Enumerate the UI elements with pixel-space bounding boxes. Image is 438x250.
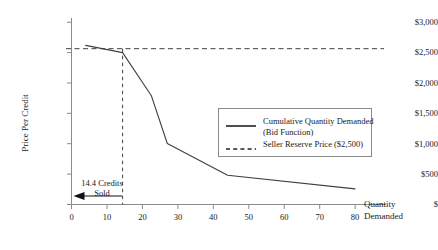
x-tick-label-70: 70 — [310, 212, 330, 222]
y-tick-label-500: $500 — [374, 169, 438, 179]
legend-solid-line-icon — [226, 117, 256, 127]
credits-sold-annotation: 14.4 Credits Sold — [66, 178, 138, 198]
y-tick-label-2000: $2,000 — [374, 78, 438, 88]
legend-entry-bid-function: Cumulative Quantity Demanded (Bid Functi… — [226, 116, 373, 137]
x-axis-title: Quantity Demanded — [364, 199, 403, 222]
chart-container: $3,000 $2,500 $2,000 $1,500 $1,000 $500 … — [0, 0, 438, 250]
legend-label-bid-function-line1: Cumulative Quantity Demanded — [263, 116, 373, 126]
y-tick-label-1500: $1,500 — [374, 108, 438, 118]
legend-dashed-line-icon — [226, 140, 256, 150]
y-tick-label-2500: $2,500 — [374, 47, 438, 57]
y-tick-label-1000: $1,000 — [374, 139, 438, 149]
legend-label-bid-function-line2: (Bid Function) — [263, 127, 313, 137]
x-axis-title-line2: Demanded — [364, 211, 403, 223]
x-tick-label-40: 40 — [203, 212, 223, 222]
x-tick-label-60: 60 — [274, 212, 294, 222]
credits-sold-line2: Sold — [66, 188, 138, 198]
legend-label-bid-function: Cumulative Quantity Demanded (Bid Functi… — [263, 116, 373, 137]
x-tick-marks — [72, 205, 356, 210]
x-tick-label-20: 20 — [132, 212, 152, 222]
credits-sold-line1: 14.4 Credits — [66, 178, 138, 188]
x-axis-title-line1: Quantity — [364, 199, 403, 211]
x-tick-label-50: 50 — [239, 212, 259, 222]
chart-legend: Cumulative Quantity Demanded (Bid Functi… — [218, 108, 372, 157]
y-tick-label-3000: $3,000 — [374, 17, 438, 27]
legend-entry-reserve-price: Seller Reserve Price ($2,500) — [226, 139, 363, 150]
legend-label-reserve-price: Seller Reserve Price ($2,500) — [263, 139, 363, 150]
x-tick-label-0: 0 — [62, 212, 82, 222]
x-tick-label-80: 80 — [345, 212, 365, 222]
x-tick-label-30: 30 — [168, 212, 188, 222]
y-axis-title: Price Per Credit — [20, 77, 30, 169]
x-tick-label-10: 10 — [97, 212, 117, 222]
